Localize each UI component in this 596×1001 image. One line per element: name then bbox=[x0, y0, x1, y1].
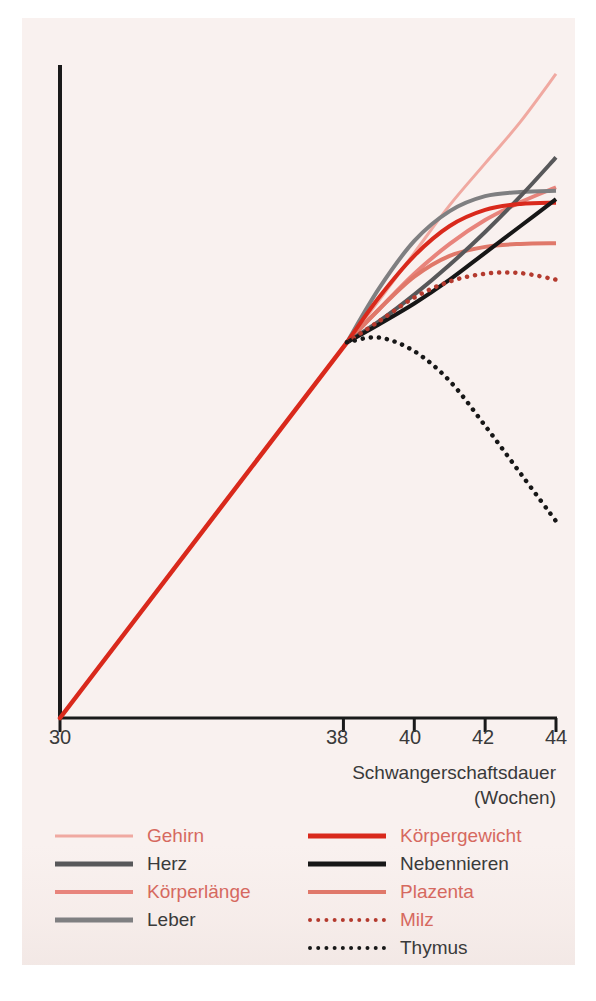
legend-item-nebennieren[interactable]: Nebennieren bbox=[308, 850, 558, 878]
series-layer bbox=[60, 74, 556, 718]
x-tick-label-30: 30 bbox=[42, 726, 78, 749]
legend-column-right: KörpergewichtNebennierenPlazentaMilzThym… bbox=[308, 822, 558, 962]
legend-item-thymus[interactable]: Thymus bbox=[308, 934, 558, 962]
legend-item-milz[interactable]: Milz bbox=[308, 906, 558, 934]
common-growth-trunk bbox=[60, 342, 347, 718]
legend-label: Thymus bbox=[400, 937, 468, 959]
legend-column-left: GehirnHerzKörperlängeLeber bbox=[55, 822, 295, 934]
legend-swatch-krpergewicht-icon bbox=[308, 829, 386, 843]
legend-swatch-nebennieren-icon bbox=[308, 857, 386, 871]
legend-label: Körpergewicht bbox=[400, 825, 521, 847]
x-tick-label-38: 38 bbox=[319, 726, 355, 749]
legend-swatch-thymus-icon bbox=[308, 941, 386, 955]
legend-item-krpergewicht[interactable]: Körpergewicht bbox=[308, 822, 558, 850]
x-tick-label-42: 42 bbox=[465, 726, 501, 749]
legend-label: Körperlänge bbox=[147, 881, 251, 903]
series-line-herz bbox=[347, 157, 556, 342]
legend-item-herz[interactable]: Herz bbox=[55, 850, 295, 878]
legend-swatch-herz-icon bbox=[55, 857, 133, 871]
legend-label: Gehirn bbox=[147, 825, 204, 847]
legend-label: Nebennieren bbox=[400, 853, 509, 875]
legend-swatch-plazenta-icon bbox=[308, 885, 386, 899]
legend-label: Milz bbox=[400, 909, 434, 931]
legend-swatch-krperlnge-icon bbox=[55, 885, 133, 899]
legend-item-krperlnge[interactable]: Körperlänge bbox=[55, 878, 295, 906]
legend-swatch-milz-icon bbox=[308, 913, 386, 927]
legend-label: Plazenta bbox=[400, 881, 474, 903]
series-line-thymus bbox=[347, 337, 556, 521]
legend-label: Leber bbox=[147, 909, 196, 931]
legend-item-gehirn[interactable]: Gehirn bbox=[55, 822, 295, 850]
x-tick-label-44: 44 bbox=[538, 726, 574, 749]
x-axis-title-line2: (Wochen) bbox=[300, 785, 556, 810]
x-axis-title-line1: Schwangerschaftsdauer bbox=[300, 760, 556, 785]
x-tick-label-40: 40 bbox=[392, 726, 428, 749]
legend-swatch-leber-icon bbox=[55, 913, 133, 927]
legend-swatch-gehirn-icon bbox=[55, 829, 133, 843]
x-axis-title: Schwangerschaftsdauer (Wochen) bbox=[300, 760, 556, 810]
legend-item-plazenta[interactable]: Plazenta bbox=[308, 878, 558, 906]
legend-item-leber[interactable]: Leber bbox=[55, 906, 295, 934]
legend-label: Herz bbox=[147, 853, 187, 875]
